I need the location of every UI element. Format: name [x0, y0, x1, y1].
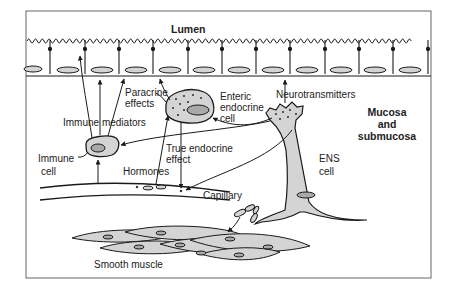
- label-enteric-endocrine-cell: Enteric endocrine cell: [220, 91, 264, 124]
- label-line: effect: [166, 154, 233, 165]
- label-capillary: Capillary: [203, 190, 242, 201]
- label-line: Paracrine: [125, 87, 168, 98]
- label-neurotransmitters: Neurotransmitters: [276, 89, 355, 100]
- label-line: True endocrine: [166, 143, 233, 154]
- label-line: cell: [38, 165, 74, 178]
- enteric-endocrine-cell: [166, 90, 214, 123]
- label-hormones: Hormones: [123, 166, 169, 177]
- label-line: endocrine: [220, 102, 264, 113]
- label-line: cell: [319, 165, 340, 178]
- label-smooth-muscle: Smooth muscle: [94, 259, 163, 270]
- label-mucosa-submucosa: Mucosa and submucosa: [357, 106, 417, 142]
- label-true-endocrine-effect: True endocrine effect: [166, 143, 233, 165]
- label-line: and: [357, 118, 417, 130]
- label-lumen: Lumen: [171, 24, 205, 35]
- label-line: cell: [220, 113, 264, 124]
- label-line: Enteric: [220, 91, 264, 102]
- label-immune-mediators: Immune mediators: [63, 117, 146, 128]
- label-ens-cell: ENS cell: [319, 152, 340, 178]
- label-line: Immune: [38, 152, 74, 165]
- label-line: ENS: [319, 152, 340, 165]
- label-immune-cell: Immune cell: [38, 152, 74, 178]
- label-line: effects: [125, 98, 168, 109]
- label-paracrine-effects: Paracrine effects: [125, 87, 168, 109]
- label-line: Mucosa: [357, 106, 417, 118]
- label-line: submucosa: [357, 130, 417, 142]
- immune-cell: [86, 136, 119, 157]
